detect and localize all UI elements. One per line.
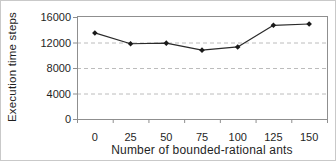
x-tick-label: 150 — [300, 131, 318, 143]
data-point-marker — [163, 40, 169, 46]
y-tick-label: 0 — [65, 113, 71, 125]
x-tick-label: 50 — [160, 131, 172, 143]
data-point-marker — [306, 21, 312, 27]
y-tick-label: 8000 — [47, 62, 71, 74]
data-point-marker — [235, 44, 241, 50]
data-series-line — [95, 24, 309, 50]
x-tick-label: 25 — [124, 131, 136, 143]
x-axis-title: Number of bounded-rational ants — [111, 143, 293, 157]
x-tick-label: 100 — [229, 131, 247, 143]
data-point-marker — [128, 41, 134, 47]
chart-figure: Execution time steps 0400080001200016000… — [0, 0, 336, 161]
data-point-marker — [199, 47, 205, 53]
x-tick-label: 125 — [264, 131, 282, 143]
x-tick-label: 75 — [196, 131, 208, 143]
y-tick-label: 4000 — [47, 88, 71, 100]
plot-area: 04000800012000160000255075100125150 — [1, 1, 336, 161]
data-point-marker — [92, 30, 98, 36]
x-tick-label: 0 — [92, 131, 98, 143]
y-tick-label: 12000 — [40, 37, 71, 49]
y-tick-label: 16000 — [40, 11, 71, 23]
data-point-marker — [271, 22, 277, 28]
